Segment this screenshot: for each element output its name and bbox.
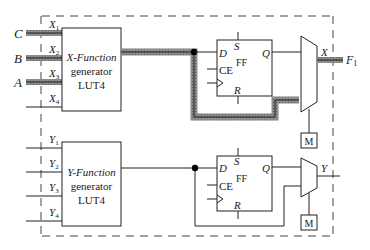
y-ff-q: Q (262, 162, 270, 174)
x-lut-label-1: X-Function (65, 51, 117, 63)
y-lut-label-2: generator (71, 180, 113, 192)
x-ff-s: S (234, 40, 240, 52)
x-ff-d: D (218, 47, 227, 59)
pin-x2: X2 (48, 43, 60, 57)
pin-y1: Y1 (49, 133, 59, 147)
x-input-buses (26, 30, 62, 107)
output-f1: F1 (345, 53, 357, 68)
pin-x3: X3 (48, 67, 60, 81)
x-ff-q: Q (262, 47, 270, 59)
y-ff-ce: CE (219, 180, 233, 192)
x-ff-r: R (233, 84, 241, 96)
pin-x4: X4 (48, 92, 60, 106)
input-label-c: C (14, 26, 23, 41)
input-label-b: B (14, 51, 22, 66)
x-lut-label-3: LUT4 (78, 79, 105, 91)
y-mux-output-label: Y (321, 162, 329, 174)
pin-y2: Y2 (49, 157, 59, 171)
x-ff-ce: CE (219, 64, 233, 76)
y-input-lines (26, 148, 62, 221)
pin-y3: Y3 (49, 181, 59, 195)
y-ff-r: R (233, 199, 241, 211)
y-lut-label-3: LUT4 (78, 194, 105, 206)
clb-diagram: C B A X1 X2 X3 X4 X-Function generator L… (0, 0, 370, 250)
x-ff-label: FF (236, 57, 248, 68)
y-junction-dot (192, 165, 198, 171)
y-mux (301, 158, 317, 197)
pin-x1: X1 (48, 18, 60, 32)
input-label-a: A (13, 75, 22, 90)
y-ff-d: D (218, 162, 227, 174)
x-mux (301, 36, 317, 112)
svg-text:M: M (305, 136, 314, 147)
x-lut-label-2: generator (71, 65, 113, 77)
svg-text:M: M (305, 218, 314, 229)
x-mux-output-label: X (320, 46, 329, 58)
y-ff-label: FF (236, 173, 248, 184)
y-ff-s: S (234, 155, 240, 167)
pin-y4: Y4 (49, 206, 59, 220)
y-lut-label-1: Y-Function (67, 166, 116, 178)
